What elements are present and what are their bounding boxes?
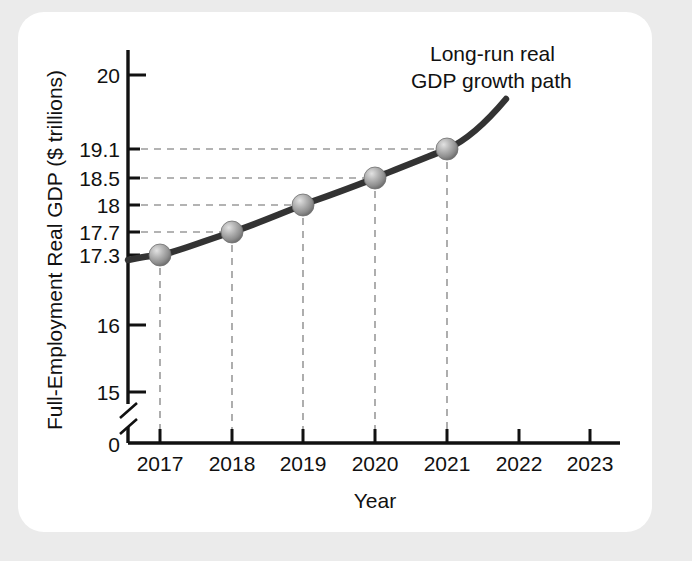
callout-line-1: Long-run real [430,42,555,65]
ytick-label-15: 15 [97,381,120,404]
vertical-gridlines [160,149,447,443]
xtick-label-2018: 2018 [209,452,256,475]
data-point-2021 [436,138,458,160]
callout-line-2: GDP growth path [411,69,572,92]
xtick-label-2022: 2022 [496,452,543,475]
xtick-label-2021: 2021 [424,452,471,475]
ytick-label-17-3: 17.3 [79,244,120,267]
growth-path-callout: Long-run real GDP growth path [411,42,572,92]
ytick-label-16: 16 [97,314,120,337]
y-tick-marks [128,75,146,392]
data-point-2019 [292,194,314,216]
xtick-label-2020: 2020 [352,452,399,475]
data-point-2017 [149,244,171,266]
y-tick-labels: 20 19.1 18.5 18 17.7 17.3 16 15 0 [79,64,120,456]
data-point-2020 [364,167,386,189]
ytick-label-18: 18 [97,194,120,217]
gdp-growth-chart: 20 19.1 18.5 18 17.7 17.3 16 15 0 2017 2… [0,0,692,561]
xtick-label-2017: 2017 [137,452,184,475]
ytick-label-17-7: 17.7 [79,221,120,244]
data-point-2018 [221,221,243,243]
xtick-label-2019: 2019 [280,452,327,475]
ytick-label-18-5: 18.5 [79,167,120,190]
x-tick-labels: 2017 2018 2019 2020 2021 2022 2023 [137,452,614,475]
gdp-growth-curve [128,99,506,260]
x-tick-marks [160,429,590,443]
xtick-label-2023: 2023 [567,452,614,475]
y-axis-title: Full-Employment Real GDP ($ trillions) [43,70,66,430]
ytick-label-0: 0 [108,433,120,456]
ytick-label-20: 20 [97,64,120,87]
ytick-label-19-1: 19.1 [79,138,120,161]
x-axis-title: Year [354,489,396,512]
